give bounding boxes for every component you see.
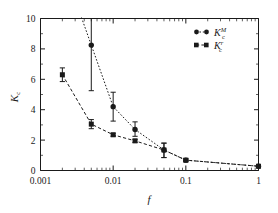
data-point-square <box>111 132 116 137</box>
data-point-square <box>60 72 65 77</box>
x-tick-label: 0.001 <box>30 176 52 186</box>
data-point-square <box>183 158 188 163</box>
y-tick-label: 8 <box>31 44 36 54</box>
chart-canvas: 0246810 0.0010.010.11 KMcKrc f Kc <box>0 0 278 213</box>
x-tick-label: 0.01 <box>105 176 122 186</box>
data-point-square <box>89 122 94 127</box>
data-point-circle <box>89 42 94 47</box>
y-tick-label: 10 <box>26 14 36 24</box>
y-tick-label: 4 <box>31 105 36 115</box>
y-tick-label: 6 <box>31 75 36 85</box>
legend-label-text: KMc <box>213 26 227 39</box>
y-tick-label: 0 <box>31 166 36 176</box>
data-point-square <box>133 138 138 143</box>
x-tick-label: 0.1 <box>180 176 192 186</box>
data-point-square <box>256 164 261 169</box>
x-tick-label: 1 <box>256 176 261 186</box>
data-point-square <box>161 147 166 152</box>
legend-marker-circle <box>204 30 209 35</box>
y-tick-label: 2 <box>31 136 36 146</box>
chart-figure: 0246810 0.0010.010.11 KMcKrc f Kc <box>0 0 278 213</box>
data-point-circle <box>110 104 115 109</box>
legend-marker-square <box>204 43 209 48</box>
legend-marker-circle <box>194 30 199 35</box>
legend-marker-square <box>194 43 199 48</box>
data-point-circle <box>132 127 137 132</box>
